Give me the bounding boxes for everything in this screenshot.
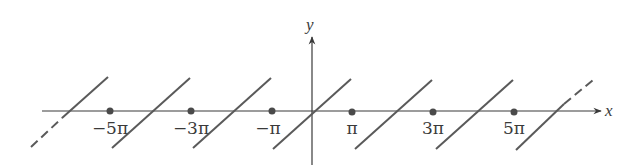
point-pi: [349, 109, 356, 116]
tick-label-minus-pi: −π: [255, 118, 280, 138]
sawtooth-diagram: x y −5π −3π −π π 3π 5π: [0, 0, 635, 165]
tick-label-pi: π: [346, 118, 357, 138]
segment-4pi: [436, 80, 513, 149]
tick-label-minus-3pi: −3π: [173, 118, 209, 138]
tick-label-minus-5pi: −5π: [92, 118, 128, 138]
segment-2pi: [355, 80, 432, 149]
y-axis-label: y: [304, 15, 314, 34]
tick-label-5pi: 5π: [503, 118, 525, 138]
x-axis-label: x: [604, 101, 613, 120]
point-minus-3pi: [188, 108, 195, 115]
point-minus-5pi: [107, 108, 114, 115]
segment-dashed-right: [564, 80, 593, 104]
segment-dashed-left: [31, 118, 62, 147]
tick-label-3pi: 3π: [422, 118, 444, 138]
point-5pi: [511, 109, 518, 116]
point-minus-pi: [269, 108, 276, 115]
point-3pi: [430, 109, 437, 116]
segment-minus-6pi: [62, 77, 108, 118]
